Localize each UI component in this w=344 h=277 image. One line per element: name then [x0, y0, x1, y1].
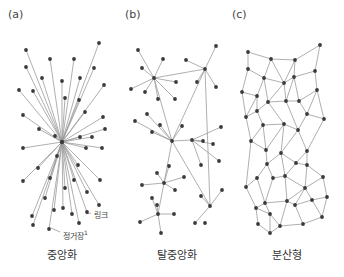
station-node: [203, 67, 207, 71]
station-node: [167, 164, 171, 168]
link-edge: [305, 188, 312, 200]
link-edge: [242, 69, 248, 92]
station-node: [184, 58, 188, 62]
station-node: [174, 80, 178, 84]
station-node: [162, 181, 166, 185]
station-node: [264, 148, 268, 152]
link-edge: [186, 60, 205, 69]
station-node: [150, 196, 154, 200]
station-node: [61, 206, 65, 210]
node-footnote-marker: 1: [84, 229, 88, 236]
link-edge: [307, 165, 323, 177]
link-edge: [296, 151, 307, 163]
station-node: [21, 113, 25, 117]
station-node: [249, 139, 253, 143]
station-node: [296, 128, 300, 132]
station-node: [244, 185, 248, 189]
station-node: [48, 176, 52, 180]
link-edge: [263, 125, 266, 150]
station-node: [136, 48, 140, 52]
link-edge: [264, 78, 284, 83]
link-edge: [307, 114, 324, 119]
link-edge: [62, 59, 74, 142]
station-node: [138, 220, 142, 224]
station-node: [269, 57, 273, 61]
link-edge: [307, 119, 324, 151]
link-edge: [257, 102, 268, 111]
station-node: [195, 80, 199, 84]
station-node: [103, 127, 107, 131]
station-node: [78, 76, 82, 80]
station-node: [140, 183, 144, 187]
station-node: [303, 186, 307, 190]
link-edge: [285, 176, 287, 201]
link-edge: [246, 141, 251, 187]
link-edge: [158, 183, 164, 214]
link-edge: [312, 197, 327, 200]
station-node: [159, 231, 163, 235]
link-edge: [267, 164, 273, 178]
panel-c-tag: (c): [232, 8, 247, 21]
link-edge: [268, 101, 286, 102]
link-edge: [286, 77, 294, 101]
link-edge: [315, 71, 317, 90]
station-node: [92, 66, 96, 70]
panel-a-tag: (a): [8, 8, 23, 21]
link-edge: [140, 214, 158, 222]
station-node: [282, 81, 286, 85]
link-edge: [62, 43, 99, 142]
station-node: [101, 115, 105, 119]
station-node: [322, 117, 326, 121]
link-edge: [294, 77, 299, 101]
station-node: [214, 85, 218, 89]
panel-b-caption: 탈중앙화: [127, 246, 227, 262]
link-edge: [266, 150, 267, 164]
station-node: [271, 176, 275, 180]
link-edge: [205, 46, 216, 69]
station-node: [150, 130, 154, 134]
station-node: [214, 44, 218, 48]
station-node: [263, 201, 267, 205]
link-edge: [26, 50, 62, 142]
station-node: [240, 90, 244, 94]
link-edge: [305, 177, 323, 188]
station-node: [24, 48, 28, 52]
station-node: [313, 69, 317, 73]
station-node: [297, 99, 301, 103]
station-node: [255, 94, 259, 98]
link-edge: [299, 101, 307, 114]
central-hub-node: [60, 140, 64, 144]
station-node: [155, 203, 159, 207]
station-pointer: [51, 228, 60, 232]
station-node: [193, 221, 197, 225]
station-node: [293, 203, 297, 207]
station-node: [37, 127, 41, 131]
station-node: [161, 57, 165, 61]
link-edge: [246, 178, 257, 187]
station-node: [52, 208, 56, 212]
station-node: [21, 179, 25, 183]
link-edge: [205, 69, 210, 206]
station-node: [60, 79, 64, 83]
network-diagrams: [0, 0, 344, 277]
station-node: [143, 90, 147, 94]
link-edge: [192, 127, 221, 140]
station-node: [24, 65, 28, 69]
link-edge: [256, 208, 258, 224]
node-annotation: 정거장1: [63, 229, 88, 241]
station-node: [156, 97, 160, 101]
link-edge: [23, 142, 62, 148]
station-node: [72, 178, 76, 182]
link-annotation: 링크: [94, 209, 108, 220]
link-edge: [268, 102, 284, 124]
link-edge: [298, 130, 307, 151]
link-edge: [164, 183, 175, 190]
station-node: [305, 163, 309, 167]
station-node: [282, 122, 286, 126]
station-node: [21, 146, 25, 150]
link-edge: [271, 59, 295, 60]
link-edge: [251, 125, 263, 141]
station-node: [158, 123, 162, 127]
link-edge: [242, 92, 257, 96]
station-node: [268, 231, 272, 235]
